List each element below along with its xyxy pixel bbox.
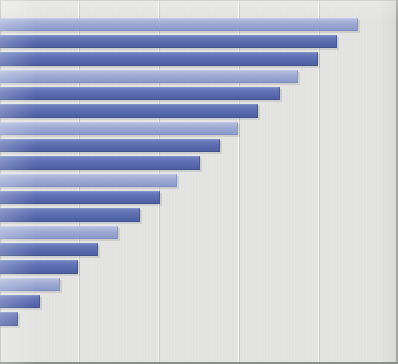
- bar-13[interactable]: [0, 226, 118, 239]
- bar-3[interactable]: [0, 52, 318, 66]
- bar-6[interactable]: [0, 104, 258, 118]
- plot-area: [0, 0, 398, 364]
- bar-10[interactable]: [0, 174, 177, 187]
- bar-5[interactable]: [0, 87, 280, 100]
- bar-2[interactable]: [0, 35, 337, 48]
- bar-9[interactable]: [0, 156, 200, 170]
- bar-8[interactable]: [0, 139, 220, 152]
- plot-border-top: [0, 0, 398, 1]
- bar-17[interactable]: [0, 295, 40, 308]
- bar-7[interactable]: [0, 122, 238, 135]
- bar-4[interactable]: [0, 70, 298, 83]
- bar-18[interactable]: [0, 312, 18, 326]
- chart-root: [0, 0, 398, 364]
- bar-14[interactable]: [0, 243, 98, 256]
- bar-12[interactable]: [0, 208, 140, 222]
- bar-1[interactable]: [0, 18, 358, 31]
- bar-11[interactable]: [0, 191, 160, 204]
- bar-16[interactable]: [0, 278, 60, 291]
- bar-15[interactable]: [0, 260, 78, 274]
